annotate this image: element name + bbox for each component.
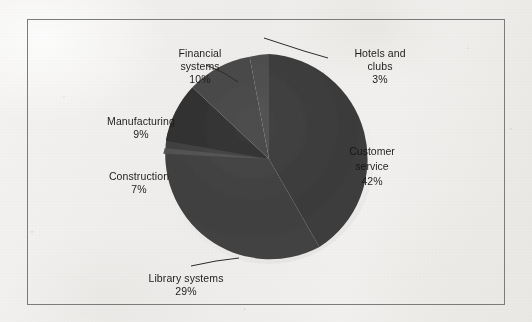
pie-chart-plot-area: Financial systems 10% Hotels and clubs 3… (28, 20, 504, 304)
slice-label-hotels-and-clubs-line2: clubs (334, 60, 426, 73)
slice-value-hotels-and-clubs: 3% (334, 73, 426, 86)
slice-value-library-systems: 29% (126, 285, 246, 298)
slice-label-library-systems: Library systems 29% (126, 272, 246, 298)
slice-label-customer-service: Customer service 42% (324, 144, 420, 189)
slice-value-construction: 7% (88, 183, 190, 196)
leader-line-library-systems (191, 258, 239, 266)
slice-label-library-systems-name: Library systems (126, 272, 246, 285)
slice-value-manufacturing: 9% (90, 128, 192, 141)
slice-label-customer-service-line1: Customer (324, 144, 420, 159)
slice-label-hotels-and-clubs-line1: Hotels and (334, 47, 426, 60)
slice-label-hotels-and-clubs: Hotels and clubs 3% (334, 47, 426, 86)
slice-label-manufacturing: Manufacturing 9% (90, 115, 192, 141)
chart-frame: Financial systems 10% Hotels and clubs 3… (27, 19, 505, 305)
slice-value-customer-service: 42% (324, 174, 420, 189)
pie-chart-svg (28, 20, 506, 306)
slice-label-financial-systems-line1: Financial (154, 47, 246, 60)
slice-label-financial-systems: Financial systems 10% (154, 47, 246, 86)
slice-label-construction-name: Construction (88, 170, 190, 183)
slice-label-manufacturing-name: Manufacturing (90, 115, 192, 128)
slice-label-customer-service-line2: service (324, 159, 420, 174)
slice-value-financial-systems: 10% (154, 73, 246, 86)
slice-label-construction: Construction 7% (88, 170, 190, 196)
slice-label-financial-systems-line2: systems (154, 60, 246, 73)
